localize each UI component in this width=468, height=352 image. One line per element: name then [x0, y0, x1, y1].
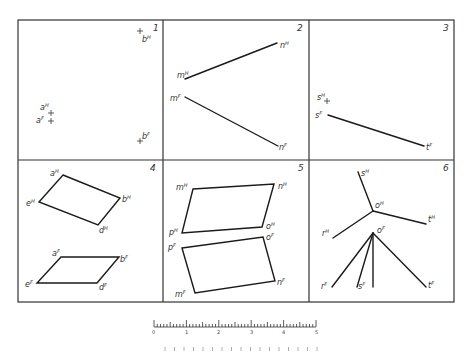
label-mF: mF: [175, 289, 186, 299]
scale-label-0: 0: [152, 329, 155, 335]
label-oF: oF: [266, 232, 274, 242]
label-bF: bF: [120, 254, 128, 264]
panel-number-5: 5: [298, 163, 304, 173]
label-dH: dH: [99, 225, 108, 235]
panel-number-3: 3: [443, 23, 449, 33]
label-aF: aF: [52, 248, 60, 258]
label-nF: nF: [277, 277, 285, 287]
panel-number-6: 6: [443, 163, 449, 173]
label-pH: pH: [168, 227, 178, 237]
label-eH: eH: [26, 198, 35, 208]
label-oF: oF: [377, 225, 385, 235]
label-pF: pF: [167, 242, 176, 252]
scale-label-1: 1: [185, 329, 188, 335]
label-oH: oH: [375, 200, 384, 210]
label-nH: nH: [280, 40, 289, 50]
point-sH-marker: [324, 98, 330, 104]
panel-3: sH sF tF: [315, 92, 432, 152]
label-bF: bF: [142, 131, 150, 141]
scale-label-5: 5: [315, 329, 318, 335]
label-oH: oH: [266, 221, 275, 231]
plane-top-view: [182, 184, 274, 233]
scale-label-4: 4: [282, 329, 285, 335]
point-aF-marker: [48, 118, 54, 124]
line-oF-tF: [373, 233, 426, 287]
plane-front-view: [182, 237, 275, 293]
plane-top-view: [39, 175, 120, 225]
outer-frame: [18, 20, 454, 302]
panel-1: bH aH aF bF: [36, 28, 151, 144]
label-sF: sF: [358, 281, 365, 291]
label-sH: sH: [361, 168, 369, 178]
panel-5: mH nH pH oH pF oF mF nF: [167, 181, 287, 299]
label-aH: aH: [40, 102, 49, 112]
line-oF-rF: [332, 233, 373, 287]
scale-ticks: [154, 320, 316, 327]
label-aF: aF: [36, 115, 44, 125]
label-rH: rH: [322, 228, 329, 238]
label-tF: tF: [426, 142, 432, 152]
label-rF: rF: [321, 281, 327, 291]
line-sF-tF: [328, 115, 424, 146]
label-bH: bH: [122, 194, 131, 204]
label-sF: sF: [315, 110, 322, 120]
label-sH: sH: [317, 92, 325, 102]
label-bH: bH: [142, 34, 151, 44]
point-aH-marker: [48, 110, 54, 116]
point-bH-marker: [137, 28, 143, 34]
line-oH-rH: [333, 211, 373, 238]
panel-6: sH oH tH rH oF rF sF tF: [321, 168, 435, 291]
plane-front-view: [37, 257, 119, 283]
panel-number-4: 4: [150, 163, 156, 173]
line-mH-nH: [185, 43, 277, 79]
line-oH-tH: [373, 211, 426, 224]
label-mH: mH: [176, 182, 188, 192]
panel-number-2: 2: [297, 23, 303, 33]
label-nF: nF: [279, 142, 287, 152]
label-mF: mF: [170, 93, 181, 103]
scale-label-2: 2: [217, 329, 220, 335]
label-eF: eF: [25, 279, 33, 289]
label-tH: tH: [428, 214, 435, 224]
secondary-scale-ticks: [165, 347, 317, 351]
label-dF: dF: [99, 282, 107, 292]
scale-bar: 0 1 2 3 4 5: [152, 320, 318, 335]
panel-number-1: 1: [153, 23, 159, 33]
orthographic-projection-figure: 1 2 3 4 5 6 bH aH aF bF mH nH mF nF sH: [0, 0, 468, 352]
panel-2: mH nH mF nF: [170, 40, 289, 152]
label-nH: nH: [278, 181, 287, 191]
line-mF-nF: [185, 97, 278, 146]
label-aH: aH: [50, 168, 59, 178]
scale-label-3: 3: [250, 329, 253, 335]
label-tF: tF: [428, 280, 434, 290]
panel-4: aH bH eH dH aF bF eF dF: [25, 168, 131, 292]
line-oF-sF: [357, 233, 373, 287]
